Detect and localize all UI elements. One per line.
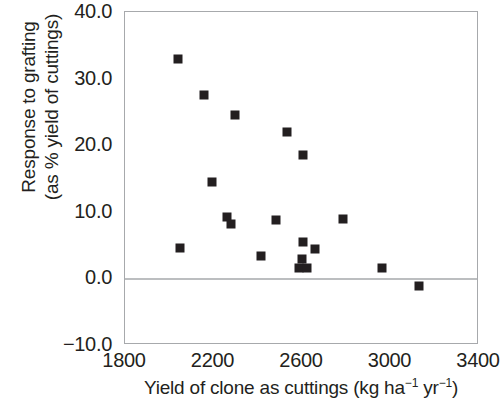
data-point [297,255,306,264]
x-axis-tick-label: 3400 [456,348,499,372]
y-axis-title-line-2: (as % yield of cuttings) [40,0,63,267]
data-point [230,111,239,120]
data-point [377,263,386,272]
data-point [339,215,348,224]
data-point [176,244,185,253]
y-axis-tick-label: 0.0 [0,267,118,287]
data-point [311,245,320,254]
x-axis-tick-label: 1800 [102,348,145,372]
y-axis-title: Response to grafting (as % yield of cutt… [17,0,63,267]
data-point [208,177,217,186]
data-point [272,215,281,224]
x-axis-tick-label: 2200 [191,348,234,372]
y-axis-title-line-1: Response to grafting [17,0,40,267]
data-point [415,282,424,291]
x-axis-tick-labels: 18002200260030003400 [0,348,503,376]
x-axis-title: Yield of clone as cuttings (kg ha−1 yr−1… [124,377,478,399]
data-point [174,54,183,63]
data-point [257,251,266,260]
x-axis-tick-label: 3000 [368,348,411,372]
scatter-chart-figure: −10.00.010.020.030.040.0 180022002600300… [0,0,503,410]
data-point [302,264,311,273]
data-point [299,237,308,246]
data-point [282,127,291,136]
x-axis-tick-label: 2600 [279,348,322,372]
data-point [227,220,236,229]
data-point [298,151,307,160]
zero-reference-line [125,278,477,280]
plot-area [124,11,478,344]
data-point [199,91,208,100]
